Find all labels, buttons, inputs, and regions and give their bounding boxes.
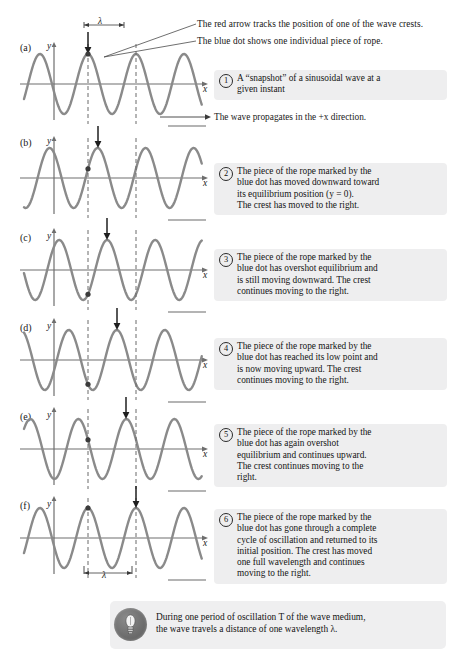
tip-bar: During one period of oscillation T of th… — [110, 601, 446, 649]
callout-4-line-3: is now moving upward. The crest — [237, 364, 378, 375]
propagation-arrow — [160, 111, 212, 123]
callout-6-line-5: one full wavelength and continues — [237, 557, 377, 568]
callout-6-text: The piece of the rope marked by the blue… — [237, 512, 377, 580]
callout-5-line-5: right. — [237, 472, 372, 483]
callout-5-number: 5 — [219, 428, 233, 442]
callout-2-line-4: The crest has moved to the right. — [237, 200, 379, 211]
callout-6-line-1: The piece of the rope marked by the — [237, 512, 377, 523]
callout-4: 4 The piece of the rope marked by the bl… — [214, 338, 447, 390]
callout-1: 1 A “snapshot” of a sinusoidal wave at a… — [214, 70, 447, 100]
callout-4-line-4: continues moving to the right. — [237, 375, 378, 386]
callout-5-line-3: equilibrium and continues upward. — [237, 450, 372, 461]
callout-2-line-2: blue dot has moved downward toward — [237, 177, 379, 188]
callout-5-text: The piece of the rope marked by the blue… — [237, 427, 372, 483]
tip-line-2: the wave travels a distance of one wavel… — [156, 623, 366, 635]
propagation-note: The wave propagates in the +x direction. — [214, 112, 366, 123]
callout-2: 2 The piece of the rope marked by the bl… — [214, 163, 447, 215]
callout-6: 6 The piece of the rope marked by the bl… — [214, 509, 447, 584]
callout-1-line-2: given instant — [237, 84, 380, 95]
callout-5-line-2: blue dot has again overshot — [237, 438, 372, 449]
callout-4-line-1: The piece of the rope marked by the — [237, 341, 378, 352]
tip-text: During one period of oscillation T of th… — [156, 611, 366, 635]
callout-3-text: The piece of the rope marked by the blue… — [237, 252, 378, 297]
callout-3-line-2: blue dot has overshot equilibrium and — [237, 263, 378, 274]
wave-figure: The red arrow tracks the position of one… — [0, 0, 456, 659]
callout-2-line-3: its equilibrium position (y = 0). — [237, 189, 379, 200]
callout-3: 3 The piece of the rope marked by the bl… — [214, 249, 447, 301]
callout-3-line-1: The piece of the rope marked by the — [237, 252, 378, 263]
tip-line-1: During one period of oscillation T of th… — [156, 611, 366, 623]
callout-5-line-4: The crest continues moving to the — [237, 461, 372, 472]
callout-2-line-1: The piece of the rope marked by the — [237, 166, 379, 177]
callout-6-line-6: moving to the right. — [237, 568, 377, 579]
callout-1-number: 1 — [219, 74, 233, 88]
callout-6-line-3: cycle of oscillation and returned to its — [237, 535, 377, 546]
callout-3-number: 3 — [219, 253, 233, 267]
lightbulb-glyph — [125, 614, 136, 635]
callout-4-line-2: blue dot has reached its low point and — [237, 352, 378, 363]
callout-3-line-3: is still moving downward. The crest — [237, 275, 378, 286]
wavelength-dimension-bottom — [80, 566, 150, 578]
callout-2-number: 2 — [219, 167, 233, 181]
wavelength-label-bottom: λ — [102, 570, 106, 580]
callout-3-line-4: continues moving to the right. — [237, 286, 378, 297]
callout-1-line-1: A “snapshot” of a sinusoidal wave at a — [237, 73, 380, 84]
lightbulb-icon — [114, 608, 147, 641]
callout-6-number: 6 — [219, 513, 233, 527]
callout-4-number: 4 — [219, 342, 233, 356]
callout-5-line-1: The piece of the rope marked by the — [237, 427, 372, 438]
callout-5: 5 The piece of the rope marked by the bl… — [214, 424, 447, 487]
callout-4-text: The piece of the rope marked by the blue… — [237, 341, 378, 386]
callout-2-text: The piece of the rope marked by the blue… — [237, 166, 379, 211]
callout-1-text: A “snapshot” of a sinusoidal wave at a g… — [237, 73, 380, 96]
callout-6-line-4: initial position. The crest has moved — [237, 546, 377, 557]
callout-6-line-2: blue dot has gone through a complete — [237, 523, 377, 534]
